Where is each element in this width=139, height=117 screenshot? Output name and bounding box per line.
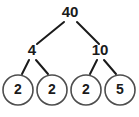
edge-left-branch-to-leaf-1: [22, 60, 29, 74]
node-root-label: 40: [62, 3, 79, 20]
node-left-branch-label: 4: [28, 41, 37, 58]
leaf-node-label-1: 2: [14, 81, 22, 97]
leaf-node-label-3: 2: [82, 81, 90, 97]
edge-left-branch-to-leaf-2: [36, 60, 48, 74]
node-right-branch-label: 10: [92, 41, 109, 58]
edge-root-to-left-branch: [37, 22, 64, 44]
edge-right-branch-to-leaf-4: [104, 60, 116, 74]
leaf-node-label-4: 5: [116, 81, 124, 97]
leaf-node-label-2: 2: [48, 81, 56, 97]
edge-right-branch-to-leaf-3: [90, 60, 97, 74]
factor-tree-diagram: 40 4 10 2 2 2 5: [0, 0, 139, 117]
